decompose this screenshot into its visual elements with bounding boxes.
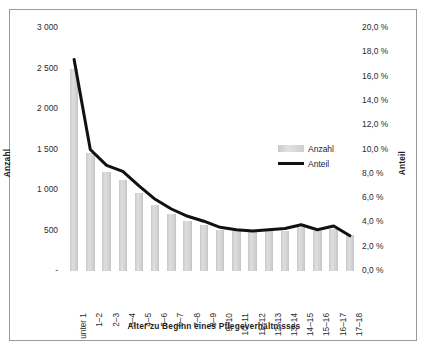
chart-legend: Anzahl Anteil [278, 141, 374, 171]
y-axis-right-tick: 6,0 % [362, 193, 383, 202]
x-axis-tick-label: 5–6 [159, 313, 169, 327]
x-axis-tick-label: 11–12 [257, 313, 267, 335]
y-axis-left-title: Anzahl [2, 149, 12, 177]
x-axis-tick-label: 14–15 [305, 313, 315, 336]
x-axis-tick-label: 17–18 [354, 313, 364, 336]
x-axis-tick-label: 9–10 [224, 313, 234, 331]
chart-frame: Anzahl Anteil Alter zu Beginn eines Pfle… [9, 9, 417, 341]
legend-line-swatch-icon [278, 162, 304, 165]
y-axis-right-tick: 4,0 % [362, 217, 383, 226]
legend-label-anzahl: Anzahl [308, 144, 334, 154]
y-axis-left-tick: 500 [44, 226, 58, 235]
y-axis-left-tick: 1 000 [37, 185, 58, 194]
x-axis-tick-label: 7–8 [192, 313, 202, 327]
y-axis-left-tick: 1 500 [37, 145, 58, 154]
legend-item-anzahl: Anzahl [278, 141, 374, 156]
y-axis-right-tick: 0,0 % [362, 266, 383, 275]
y-axis-left-tick: 2 500 [37, 64, 58, 73]
legend-bar-swatch-icon [278, 145, 304, 152]
y-axis-right-tick: 16,0 % [362, 72, 388, 81]
y-axis-right-tick: 20,0 % [362, 23, 388, 32]
y-axis-right-tick: 12,0 % [362, 120, 388, 129]
y-axis-right-tick: 2,0 % [362, 242, 383, 251]
legend-label-anteil: Anteil [308, 159, 329, 169]
x-axis-tick-label: 13–14 [289, 313, 299, 336]
x-axis-tick-label: 6–7 [175, 313, 185, 327]
x-axis-tick-label: 4–5 [143, 313, 153, 327]
x-axis-tick-label: 10–11 [240, 313, 250, 335]
x-axis-tick-label: unter 1 [78, 313, 88, 339]
x-axis-category-labels: unter 11–22–33–44–55–66–77–88–99–1010–11… [66, 255, 358, 317]
x-axis-tick-label: 2–3 [111, 313, 121, 327]
legend-item-anteil: Anteil [278, 156, 374, 171]
y-axis-right-tick: 14,0 % [362, 96, 388, 105]
chart-plot-stage: Anzahl Anteil Alter zu Beginn eines Pfle… [10, 10, 418, 342]
y-axis-right-tick: 18,0 % [362, 47, 388, 56]
y-axis-left-tick: 3 000 [37, 23, 58, 32]
y-axis-left-tick: 2 000 [37, 104, 58, 113]
x-axis-tick-label: 3–4 [127, 313, 137, 327]
x-axis-tick-label: 12–13 [273, 313, 283, 336]
x-axis-tick-label: 16–17 [338, 313, 348, 336]
x-axis-tick-label: 1–2 [94, 313, 104, 327]
y-axis-left-ticks: -5001 0001 5002 0002 5003 000 [20, 10, 58, 342]
x-axis-tick-label: 8–9 [208, 313, 218, 327]
y-axis-left-tick: - [55, 266, 58, 275]
x-axis-tick-label: 15–16 [321, 313, 331, 336]
y-axis-right-ticks: 0,0 %2,0 %4,0 %6,0 %8,0 %10,0 %12,0 %14,… [362, 10, 404, 342]
